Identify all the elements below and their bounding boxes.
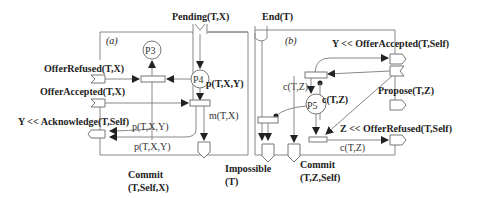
propose-output-icon	[390, 100, 406, 110]
p4-label: P4	[193, 74, 204, 85]
pending-port-icon	[193, 24, 207, 34]
impossible-label-2: (T)	[225, 176, 238, 188]
commit-a-label-2: (T,Self,X)	[128, 182, 169, 194]
impossible-port-icon	[262, 144, 274, 162]
c-arc-label-1: c(T,Z)	[283, 81, 308, 93]
m-arc-label: m(T,X)	[209, 110, 239, 122]
p-arc-label-2: p(T,X,Y)	[134, 141, 170, 153]
commit-a-label-1: Commit	[128, 169, 164, 180]
offer-accepted-label: OfferAccepted(T,X)	[40, 86, 125, 98]
c-arc-label-2: c(T,Z)	[322, 94, 348, 106]
offer-refused-label: OfferRefused(T,X)	[44, 63, 124, 75]
commit-port-icon	[198, 142, 210, 158]
offer-refused-port-icon	[91, 75, 105, 83]
propose-port-icon	[390, 66, 404, 76]
transition-accepted	[190, 100, 210, 106]
impossible-label-1: Impossible	[225, 163, 272, 174]
transition-propose	[305, 72, 327, 78]
offer-accepted-output-icon	[390, 54, 406, 64]
panel-a: Pending(T,X) (a) P3 P4 p(T,X,Y) OfferRef…	[18, 11, 248, 194]
transition-refused-b	[309, 137, 327, 142]
offer-refused-output-icon	[390, 135, 406, 145]
panel-b: End(T) (b) Y << OfferAccepted(T,Self) Pr…	[225, 11, 452, 188]
p3-label: P3	[145, 45, 156, 56]
p5-label: P5	[307, 100, 318, 111]
commit-b-port-icon	[288, 144, 300, 162]
p4-arc-label: p(T,X,Y)	[206, 78, 244, 90]
panel-a-tag: (a)	[106, 35, 118, 47]
c-arc-label-3: c(T,Z)	[340, 142, 365, 154]
p-arc-label-1: p(T,X,Y)	[132, 121, 168, 133]
panel-b-tag: (b)	[285, 35, 297, 47]
transition-refused	[141, 76, 165, 82]
petri-net-diagram: Pending(T,X) (a) P3 P4 p(T,X,Y) OfferRef…	[0, 0, 480, 198]
propose-label: Propose(T,Z)	[378, 85, 434, 97]
acknowledge-label: Y << Acknowledge(T,Self)	[18, 116, 129, 128]
end-port-icon	[255, 26, 267, 41]
commit-b-label-2: (T,Z,Self)	[300, 172, 340, 184]
offer-refused-b-label: Z << OfferRefused(T,Self)	[340, 123, 452, 135]
offer-accepted-b-label: Y << OfferAccepted(T,Self)	[332, 38, 449, 50]
offer-accepted-port-icon	[91, 99, 105, 107]
transition-impossible	[258, 117, 278, 123]
commit-b-label-1: Commit	[300, 159, 336, 170]
end-label: End(T)	[262, 11, 293, 23]
pending-label: Pending(T,X)	[172, 11, 229, 23]
acknowledge-port-icon	[88, 130, 105, 138]
